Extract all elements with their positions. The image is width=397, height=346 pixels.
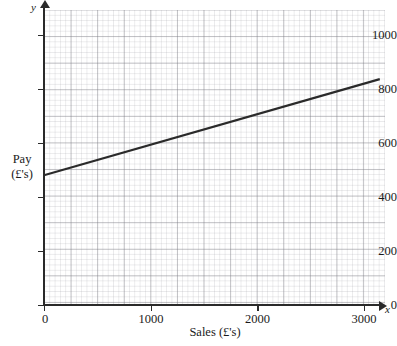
y-axis-title: Pay (£'s) [2,152,42,182]
y-tick-800 [38,89,44,90]
y-tick-200 [38,251,44,252]
y-tick-label-400: 400 [363,190,397,205]
y-axis-name-label: y [31,1,36,13]
y-tick-label-800: 800 [363,82,397,97]
y-axis-line [43,6,45,306]
y-tick-label-1000: 1000 [363,28,397,43]
x-axis-line [44,304,381,306]
pay-trend-line [44,79,380,175]
x-tick-1000 [151,305,152,311]
series-layer [0,0,397,346]
x-tick-label-3000: 3000 [334,312,394,327]
y-tick-1000 [38,35,44,36]
y-tick-400 [38,197,44,198]
y-tick-600 [38,143,44,144]
pay-vs-sales-line-chart: y x 0 200 400 600 800 1000 0 1000 2000 3… [0,0,397,346]
y-axis-arrow-icon [40,0,50,8]
y-tick-label-600: 600 [363,136,397,151]
y-axis-title-line1: Pay [2,152,42,167]
x-tick-2000 [257,305,258,311]
x-tick-3000 [364,305,365,311]
y-tick-label-200: 200 [363,244,397,259]
x-axis-title: Sales (£'s) [155,325,275,340]
y-tick-label-0: 0 [363,298,397,313]
y-axis-title-line2: (£'s) [2,167,42,182]
x-tick-0 [44,305,45,311]
x-tick-label-0: 0 [15,312,75,327]
